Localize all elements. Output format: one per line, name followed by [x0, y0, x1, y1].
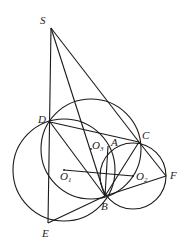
label-f: F	[169, 169, 177, 181]
labels-group: SDEBCFAO1O2O3	[37, 14, 177, 239]
label-s: S	[40, 14, 46, 26]
label-o1: O1	[60, 170, 71, 184]
label-c: C	[142, 129, 150, 141]
geometry-figure: SDEBCFAO1O2O3	[0, 0, 189, 244]
label-o2: O2	[136, 170, 148, 184]
label-o3: O3	[92, 139, 104, 153]
segment-d-b	[50, 122, 105, 196]
label-a: A	[110, 136, 118, 148]
point-o2	[132, 175, 134, 177]
segment-a-b	[105, 146, 108, 196]
segments-group	[48, 28, 166, 223]
label-b: B	[101, 200, 108, 212]
segment-s-e	[48, 28, 51, 223]
label-e: E	[41, 227, 49, 239]
label-d: D	[37, 113, 46, 125]
circles-group	[13, 99, 166, 221]
